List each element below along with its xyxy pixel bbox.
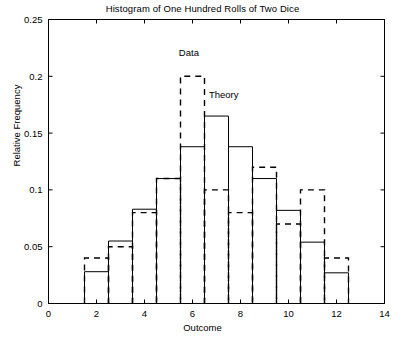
- x-tick-label: 0: [46, 308, 51, 319]
- bar-data-11: [301, 190, 325, 304]
- x-tick-label: 4: [142, 308, 147, 319]
- bar-data-7: [205, 190, 229, 304]
- bar-theory-7: [205, 116, 229, 303]
- bar-data-3: [109, 247, 133, 304]
- bar-data-6: [181, 76, 205, 303]
- bar-data-9: [253, 167, 277, 303]
- x-tick-label: 10: [283, 308, 294, 319]
- y-tick-label: 0.25: [24, 14, 43, 25]
- y-tick-label: 0: [37, 298, 42, 309]
- y-tick-label: 0.1: [29, 184, 42, 195]
- series-annotations: DataTheory: [179, 47, 239, 100]
- bar-theory-2: [85, 272, 109, 304]
- bar-data-10: [277, 224, 301, 304]
- x-tick-label: 2: [94, 308, 99, 319]
- x-axis-ticks: 02468101214: [46, 20, 390, 319]
- bar-theory-6: [181, 147, 205, 304]
- bar-data-4: [133, 213, 157, 304]
- bar-data-5: [157, 179, 181, 304]
- x-tick-label: 14: [379, 308, 390, 319]
- bar-data-8: [229, 213, 253, 304]
- data-series-dashed: [85, 76, 349, 303]
- bar-theory-8: [229, 147, 253, 304]
- x-tick-label: 12: [331, 308, 342, 319]
- bar-theory-5: [157, 179, 181, 304]
- bar-data-2: [85, 258, 109, 303]
- y-tick-label: 0.15: [24, 128, 43, 139]
- bar-theory-3: [109, 241, 133, 303]
- x-tick-label: 6: [190, 308, 195, 319]
- chart-plot-area: 00.050.10.150.20.25 02468101214 DataTheo…: [0, 0, 405, 341]
- bar-theory-4: [133, 209, 157, 303]
- y-tick-label: 0.2: [29, 71, 42, 82]
- bar-data-12: [325, 258, 349, 303]
- bar-theory-11: [301, 242, 325, 303]
- x-tick-label: 8: [238, 308, 243, 319]
- y-tick-label: 0.05: [24, 241, 43, 252]
- theory-series-solid: [85, 116, 349, 303]
- chart-figure: Histogram of One Hundred Rolls of Two Di…: [0, 0, 405, 341]
- axes-frame: [49, 20, 385, 304]
- bar-theory-9: [253, 179, 277, 304]
- bar-theory-12: [325, 273, 349, 304]
- annotation-theory: Theory: [209, 89, 239, 100]
- annotation-data: Data: [179, 47, 200, 58]
